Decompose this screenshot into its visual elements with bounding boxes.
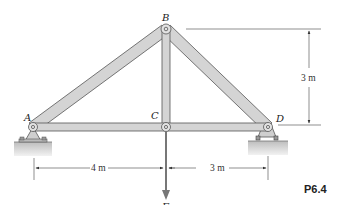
span-dimensions bbox=[34, 156, 268, 180]
member-ab bbox=[29, 25, 170, 131]
span-cd-label: 3 m bbox=[210, 163, 225, 173]
joint-d bbox=[264, 123, 273, 132]
truss-diagram: A B C D 3 m 4 m 3 m F P6.4 bbox=[0, 0, 341, 205]
member-bc bbox=[162, 29, 170, 127]
problem-id: P6.4 bbox=[304, 183, 328, 195]
label-f: F bbox=[161, 201, 170, 205]
member-cd bbox=[166, 123, 268, 131]
label-c: C bbox=[151, 110, 159, 121]
label-d: D bbox=[275, 113, 284, 124]
span-ac-label: 4 m bbox=[91, 163, 106, 173]
joint-c bbox=[162, 123, 171, 132]
load-arrow-f bbox=[162, 131, 170, 200]
member-bd bbox=[162, 25, 272, 131]
member-ac bbox=[33, 123, 166, 131]
ground-support-d bbox=[248, 141, 288, 155]
height-dimension-label: 3 m bbox=[301, 73, 316, 83]
joint-a bbox=[29, 123, 38, 132]
label-a: A bbox=[23, 112, 31, 123]
ground-support-a bbox=[14, 142, 52, 156]
label-b: B bbox=[161, 12, 169, 23]
joint-b bbox=[161, 24, 171, 34]
